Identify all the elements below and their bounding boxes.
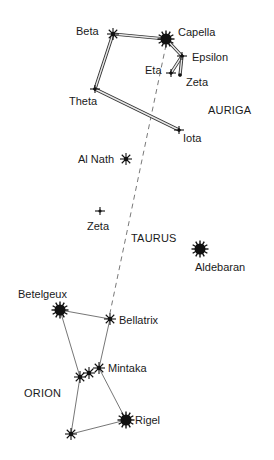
al-nath-star-icon (120, 153, 132, 165)
theta-label: Theta (69, 95, 97, 107)
stars-layer (52, 28, 209, 440)
taurus-constellation-label: TAURUS (131, 232, 177, 244)
constellation-line-inner (113, 34, 166, 39)
aldebaran-star-icon (192, 241, 209, 258)
iota-label: Iota (183, 132, 201, 144)
mintaka-label: Mintaka (108, 362, 147, 374)
aldebaran-label: Aldebaran (195, 261, 245, 273)
pointer-line-layer (110, 45, 166, 313)
constellation-line (71, 420, 126, 434)
capella-label: Capella (178, 26, 215, 38)
bellatrix-label: Bellatrix (119, 314, 158, 326)
constellation-line (99, 368, 126, 420)
rigel-label: Rigel (135, 414, 160, 426)
zeta-label: Zeta (186, 76, 208, 88)
constellation-line (60, 310, 110, 319)
beta-star-icon (107, 28, 119, 40)
saiph-star-icon (65, 428, 77, 440)
auriga-constellation-label: AURIGA (208, 104, 251, 116)
alnitak-star-icon (74, 371, 86, 383)
dashed-pointer-line (110, 45, 166, 313)
auriga-lines-layer (95, 34, 182, 130)
beta-label: Beta (76, 25, 99, 37)
mintaka-star-icon (93, 362, 105, 374)
constellation-line-inner (95, 34, 113, 89)
epsilon-label: Epsilon (192, 51, 228, 63)
eta-label: Eta (145, 64, 162, 76)
constellation-line (99, 319, 110, 368)
orion-constellation-label: ORION (24, 387, 61, 399)
rigel-star-icon (118, 412, 135, 429)
betelgeux-star-icon (52, 302, 69, 319)
constellation-line (60, 310, 80, 377)
bellatrix-star-icon (104, 313, 116, 325)
al-nath-label: Al Nath (78, 153, 114, 165)
betelgeux-label: Betelgeux (18, 288, 67, 300)
constellation-line-inner (95, 89, 179, 130)
zeta-label: Zeta (87, 220, 109, 232)
constellation-line (71, 377, 80, 434)
zeta-star-icon (95, 207, 105, 215)
zeta-star-icon (178, 73, 182, 77)
